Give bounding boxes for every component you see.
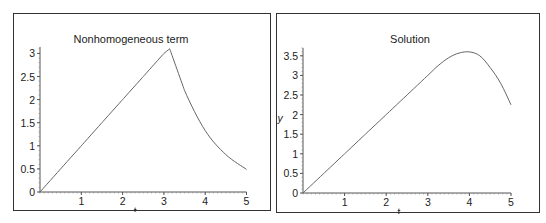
x-tick-label: 1 — [342, 196, 348, 208]
y-axis-label: y — [277, 112, 283, 124]
y-tick-label: 2 — [29, 94, 35, 106]
y-tick-label: 3 — [29, 47, 35, 59]
x-axis-label: t — [134, 205, 137, 212]
y-tick-label: 0 — [292, 187, 298, 199]
x-tick-label: 4 — [202, 195, 208, 207]
x-axis-label: t — [398, 206, 401, 214]
solution-plot: Solution1234500.511.522.533.5ty — [276, 13, 540, 213]
solution-chart: Solution1234500.511.522.533.5ty — [277, 14, 541, 214]
x-tick-label: 2 — [383, 196, 389, 208]
x-tick-label: 1 — [78, 195, 84, 207]
y-tick-label: 2 — [292, 109, 298, 121]
y-tick-label: 2.5 — [20, 71, 35, 83]
data-curve — [303, 52, 511, 193]
chart-title: Nonhomogeneous term — [74, 33, 189, 45]
x-tick-label: 3 — [425, 196, 431, 208]
x-tick-label: 5 — [508, 196, 514, 208]
x-tick-label: 3 — [161, 195, 167, 207]
y-tick-label: 2.5 — [283, 89, 298, 101]
y-tick-label: 0.5 — [20, 163, 35, 175]
nonhomogeneous-term-plot: Nonhomogeneous term1234500.511.522.53t — [13, 13, 271, 211]
y-tick-label: 3.5 — [283, 50, 298, 62]
y-tick-label: 0 — [29, 186, 35, 198]
chart-title: Solution — [390, 33, 430, 45]
y-tick-label: 1.5 — [283, 128, 298, 140]
y-tick-label: 1.5 — [20, 117, 35, 129]
y-tick-label: 1 — [292, 148, 298, 160]
data-curve — [40, 49, 247, 192]
x-tick-label: 2 — [120, 195, 126, 207]
y-tick-label: 0.5 — [283, 167, 298, 179]
x-tick-label: 5 — [244, 195, 250, 207]
x-tick-label: 4 — [466, 196, 472, 208]
y-tick-label: 1 — [29, 140, 35, 152]
y-tick-label: 3 — [292, 69, 298, 81]
nonhomogeneous-term-chart: Nonhomogeneous term1234500.511.522.53t — [14, 14, 272, 212]
